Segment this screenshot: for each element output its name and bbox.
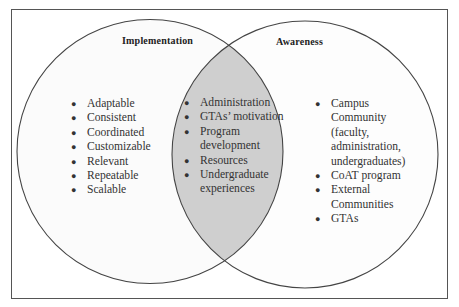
list-item: ●Campus Community (faculty, administrati… — [315, 97, 427, 169]
bullet-icon: ● — [184, 125, 200, 139]
list-item: ●Program development — [184, 125, 284, 154]
bullet-icon: ● — [71, 169, 87, 183]
bullet-icon: ● — [184, 110, 200, 124]
bullet-icon: ● — [71, 111, 87, 125]
bullet-icon: ● — [71, 183, 87, 197]
list-item: ●Scalable — [71, 183, 163, 197]
list-item: ●CoAT program — [315, 169, 427, 183]
bullet-icon: ● — [184, 96, 200, 110]
list-item: ●Customizable — [71, 140, 163, 154]
awareness-list: ●Campus Community (faculty, administrati… — [315, 97, 427, 227]
bullet-icon: ● — [315, 97, 331, 111]
list-item: ●Relevant — [71, 155, 163, 169]
list-item: ●Consistent — [71, 111, 163, 125]
list-item: ●Adaptable — [71, 97, 163, 111]
list-item: ●Repeatable — [71, 169, 163, 183]
overlap-list: ●Administration ●GTAs’ motivation ●Progr… — [184, 96, 284, 197]
implementation-list: ●Adaptable ●Consistent ●Coordinated ●Cus… — [71, 97, 163, 198]
list-item: ●External Communities — [315, 183, 427, 212]
list-item: ●Administration — [184, 96, 284, 110]
bullet-icon: ● — [184, 154, 200, 168]
bullet-icon: ● — [315, 169, 331, 183]
bullet-icon: ● — [184, 168, 200, 182]
list-item: ●GTAs — [315, 212, 427, 226]
bullet-icon: ● — [315, 212, 331, 226]
awareness-title: Awareness — [276, 36, 323, 47]
list-item: ●Coordinated — [71, 126, 163, 140]
bullet-icon: ● — [71, 126, 87, 140]
list-item: ●Resources — [184, 154, 284, 168]
bullet-icon: ● — [315, 183, 331, 197]
bullet-icon: ● — [71, 155, 87, 169]
list-item: ●GTAs’ motivation — [184, 110, 284, 124]
bullet-icon: ● — [71, 140, 87, 154]
list-item: ●Undergraduate experiences — [184, 168, 284, 197]
bullet-icon: ● — [71, 97, 87, 111]
implementation-title: Implementation — [122, 35, 193, 46]
